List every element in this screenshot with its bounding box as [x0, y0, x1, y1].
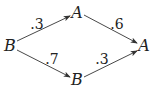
node-b-bottom: B [71, 72, 83, 88]
node-a-right: A [138, 38, 150, 54]
node-b-left: B [4, 38, 16, 54]
edge-b-bottom-to-a-right [84, 51, 137, 77]
edge-label-b-a-top: .3 [30, 17, 43, 31]
edge-label-b-b: .7 [45, 52, 58, 66]
edge-label-a-a: .6 [110, 17, 123, 31]
edge-label-b-a-right: .3 [95, 52, 108, 66]
node-a-top: A [71, 5, 83, 21]
edge-b-left-to-b-bottom [17, 50, 70, 77]
